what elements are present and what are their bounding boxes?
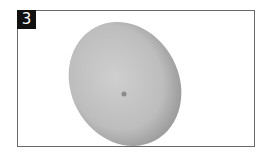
- ellipsoid-body: [47, 2, 202, 155]
- center-dot: [122, 92, 127, 97]
- ellipsoid-shape: [0, 0, 262, 155]
